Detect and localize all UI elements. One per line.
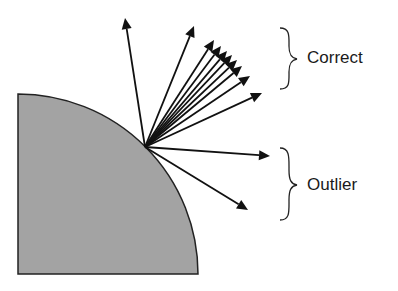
outlier-brace-icon [280,148,297,220]
correct-brace-icon [280,28,297,89]
correct-vector-line [145,55,214,147]
correct-vector-line [145,63,224,147]
arrowhead-icon [236,200,248,210]
correct-vector-line [127,29,145,147]
outlier-label: Outlier [307,175,357,195]
arrowhead-icon [259,150,270,160]
outlier-vector-line [145,147,259,155]
arrowhead-icon [204,40,214,52]
curved-surface [18,94,198,274]
correct-label: Correct [307,48,363,68]
diagram-canvas: Correct Outlier [0,0,398,291]
normal-vectors-figure [0,0,398,291]
correct-vector-line [145,73,234,147]
arrowhead-icon [238,76,250,86]
arrowhead-icon [122,18,132,30]
correct-vector-line [145,68,229,147]
